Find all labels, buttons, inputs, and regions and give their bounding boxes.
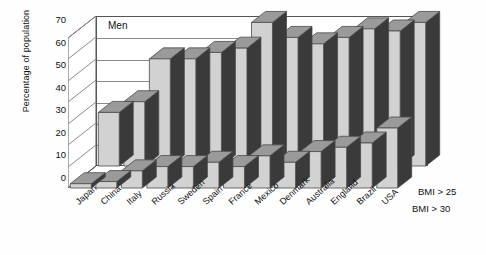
y-tick-30: 30 [36,105,66,115]
bar-bmi25-japan [98,101,133,166]
y-tick-70: 70 [36,15,66,25]
y-tick-10: 10 [36,150,66,160]
y-tick-60: 60 [36,38,66,48]
chart-root: Percentage of population 70 60 50 40 30 … [0,0,486,255]
y-tick-20: 20 [36,128,66,138]
y-tick-40: 40 [36,83,66,93]
y-axis-ticks: 70 60 50 40 30 20 10 0 [34,0,66,255]
y-tick-0: 0 [36,173,66,183]
y-tick-50: 50 [36,60,66,70]
plot-area: Men [68,16,428,188]
bars-layer [68,16,428,188]
y-axis-label: Percentage of population [21,0,31,131]
legend-item-bmi25: BMI > 25 [418,186,456,197]
legend-item-bmi30: BMI > 30 [412,203,450,214]
